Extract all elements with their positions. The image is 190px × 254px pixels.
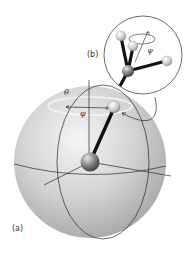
theta-label: θ [64,89,69,97]
diagram-svg [0,0,190,254]
inset-magnification [104,16,182,94]
inset-atom-right [162,56,172,66]
inset-atom-left [116,31,126,41]
central-atom [81,153,100,172]
psi-label: ψ [147,47,153,55]
upper-atom [108,101,120,113]
inset-central-atom [122,65,134,77]
phi-label: φ [80,110,86,118]
panel-b-label: (b) [87,51,98,59]
inset-atom-back [128,41,138,51]
rotation-diagram: θ φ ψ (b) (a) [0,0,190,254]
panel-a-label: (a) [12,225,23,233]
